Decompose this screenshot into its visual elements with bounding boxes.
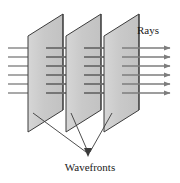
wavefronts-label: Wavefronts [65,161,115,173]
figure-canvas: Rays Wavefronts [0,0,180,183]
rays-label: Rays [137,24,159,36]
wavefronts-rays-figure: Rays Wavefronts [0,0,180,183]
